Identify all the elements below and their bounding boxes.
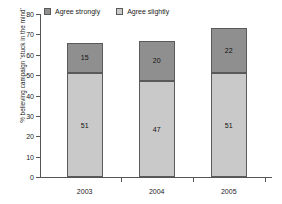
x-axis-line [40, 177, 272, 178]
bar-value-label: 47 [153, 126, 161, 133]
y-axis-line [40, 14, 41, 178]
y-axis-tick-label: 70 [26, 31, 34, 38]
bar-value-label: 15 [81, 54, 89, 61]
bar-segment-agree-strongly[interactable]: 22 [211, 28, 247, 73]
bar-value-label: 51 [225, 122, 233, 129]
bar-group[interactable]: 5122 [211, 28, 247, 177]
y-axis-tick-mark [36, 75, 40, 76]
bar-chart: % believing campaign 'stuck in the mind'… [0, 0, 282, 204]
bar-segment-agree-slightly[interactable]: 51 [67, 73, 103, 177]
bar-value-label: 22 [225, 47, 233, 54]
bar-value-label: 51 [81, 122, 89, 129]
y-axis-tick-label: 50 [26, 72, 34, 79]
y-axis-tick-label: 30 [26, 112, 34, 119]
bar-group[interactable]: 5115 [67, 43, 103, 177]
y-axis-tick-mark [36, 14, 40, 15]
y-axis-tick-mark [36, 96, 40, 97]
y-axis-title: % believing campaign 'stuck in the mind' [19, 0, 26, 146]
y-axis-tick-mark [36, 55, 40, 56]
y-axis-tick-mark [36, 177, 40, 178]
plot-area: 01020304050607080 200320042005 511547205… [40, 14, 272, 178]
y-axis-tick-label: 40 [26, 92, 34, 99]
y-axis-tick-mark [36, 116, 40, 117]
y-axis-tick-label: 60 [26, 51, 34, 58]
x-axis-tick-label: 2003 [77, 188, 93, 195]
bar-segment-agree-strongly[interactable]: 20 [139, 41, 175, 82]
bar-segment-agree-slightly[interactable]: 51 [211, 73, 247, 177]
bar-segment-agree-slightly[interactable]: 47 [139, 81, 175, 177]
x-axis-tick-label: 2005 [221, 188, 237, 195]
x-axis-tick-mark [265, 178, 266, 182]
y-axis-tick-label: 20 [26, 133, 34, 140]
y-axis-tick-mark [36, 157, 40, 158]
bar-segment-agree-strongly[interactable]: 15 [67, 43, 103, 74]
y-axis-tick-label: 80 [26, 11, 34, 18]
x-axis-tick-mark [193, 178, 194, 182]
y-axis-tick-mark [36, 34, 40, 35]
bar-value-label: 20 [153, 57, 161, 64]
x-axis-tick-label: 2004 [149, 188, 165, 195]
y-axis-tick-label: 10 [26, 153, 34, 160]
bar-group[interactable]: 4720 [139, 41, 175, 178]
x-axis-tick-mark [121, 178, 122, 182]
y-axis-tick-mark [36, 136, 40, 137]
y-axis-tick-label: 0 [30, 174, 34, 181]
